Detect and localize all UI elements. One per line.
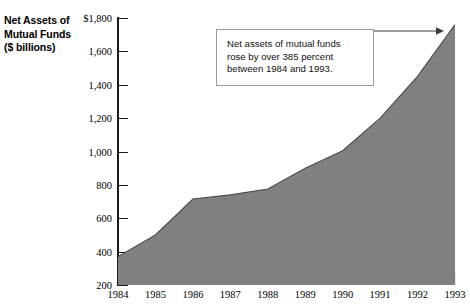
x-tick-mark	[455, 272, 456, 285]
x-tick-label: 1984	[98, 289, 138, 300]
callout-line-1: Net assets of mutual funds	[227, 38, 364, 51]
callout-leader-arrow	[374, 25, 444, 37]
callout-line-2: rose by over 385 percent	[227, 51, 364, 64]
y-tick-label: 1,200	[56, 113, 112, 124]
x-tick-label: 1985	[135, 289, 175, 300]
y-tick-label: 1,000	[56, 146, 112, 157]
y-tick-mark	[119, 285, 128, 286]
y-tick-label: 800	[56, 179, 112, 190]
x-tick-label: 1991	[360, 289, 400, 300]
y-tick-label: 1,400	[56, 79, 112, 90]
x-tick-label: 1987	[210, 289, 250, 300]
growth-callout: Net assets of mutual funds rose by over …	[216, 29, 374, 86]
y-tick-label: $1,800	[56, 13, 112, 24]
y-axis-title-line-2: Mutual Funds	[4, 28, 82, 42]
y-tick-label: 600	[56, 213, 112, 224]
x-tick-label: 1993	[435, 289, 470, 300]
y-tick-label: 1,600	[56, 46, 112, 57]
x-tick-label: 1986	[173, 289, 213, 300]
y-tick-label: 400	[56, 246, 112, 257]
x-tick-label: 1992	[398, 289, 438, 300]
callout-line-3: between 1984 and 1993.	[227, 63, 364, 76]
x-tick-label: 1990	[323, 289, 363, 300]
x-tick-label: 1989	[285, 289, 325, 300]
x-tick-label: 1988	[248, 289, 288, 300]
